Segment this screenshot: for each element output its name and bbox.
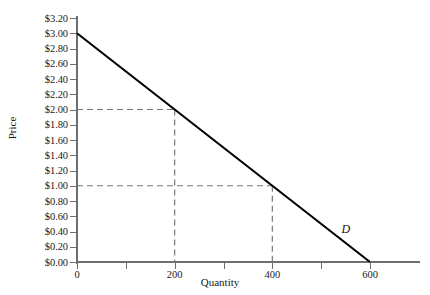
y-tick [70, 49, 77, 50]
y-tick [70, 33, 77, 34]
x-axis-line [76, 261, 420, 263]
y-tick-label: $2.60 [0, 58, 68, 69]
y-tick-label: $0.60 [0, 211, 68, 222]
y-tick-label-wrap: $3.00 [0, 28, 68, 39]
x-axis-title: Quantity [160, 276, 280, 288]
y-tick-label-wrap: $3.20 [0, 13, 68, 24]
y-tick [70, 79, 77, 80]
y-axis-title: Price [6, 98, 18, 158]
guide-lines [77, 110, 272, 263]
y-tick [70, 171, 77, 172]
y-tick [70, 247, 77, 248]
y-tick [70, 155, 77, 156]
y-tick-label-wrap: $0.00 [0, 257, 68, 268]
y-tick [70, 140, 77, 141]
demand-curve [77, 33, 370, 262]
y-tick [70, 18, 77, 19]
y-tick-label: $1.00 [0, 180, 68, 191]
y-tick-label: $0.80 [0, 196, 68, 207]
y-tick-label-wrap: $0.20 [0, 241, 68, 252]
y-tick-label: $3.00 [0, 28, 68, 39]
y-tick-label-wrap: $0.80 [0, 196, 68, 207]
y-tick-label: $2.40 [0, 74, 68, 85]
y-tick [70, 201, 77, 202]
y-tick-label: $0.40 [0, 226, 68, 237]
x-tick-label: 0 [47, 269, 107, 281]
y-tick [70, 64, 77, 65]
y-tick-label-wrap: $2.80 [0, 43, 68, 54]
y-tick [70, 216, 77, 217]
y-tick-label-wrap: $1.00 [0, 180, 68, 191]
x-tick [126, 263, 127, 269]
y-tick-label-wrap: $1.20 [0, 165, 68, 176]
demand-curve-chart: $0.00$0.20$0.40$0.60$0.80$1.00$1.20$1.40… [0, 0, 430, 295]
y-tick [70, 232, 77, 233]
y-tick-label: $2.80 [0, 43, 68, 54]
y-tick-label-wrap: $0.60 [0, 211, 68, 222]
y-tick [70, 186, 77, 187]
x-tick [224, 263, 225, 269]
y-tick-label-wrap: $2.40 [0, 74, 68, 85]
y-tick-label-wrap: $2.60 [0, 58, 68, 69]
y-tick-label-wrap: $0.40 [0, 226, 68, 237]
y-tick [70, 262, 77, 263]
y-tick [70, 94, 77, 95]
y-tick [70, 125, 77, 126]
x-tick-label: 600 [340, 269, 400, 281]
y-tick-label: $1.20 [0, 165, 68, 176]
y-tick-label: $3.20 [0, 13, 68, 24]
y-tick-label: $0.20 [0, 241, 68, 252]
demand-curve-label: D [342, 222, 351, 237]
data-series [77, 33, 370, 262]
y-tick-label: $0.00 [0, 257, 68, 268]
y-tick [70, 110, 77, 111]
x-tick [321, 263, 322, 269]
